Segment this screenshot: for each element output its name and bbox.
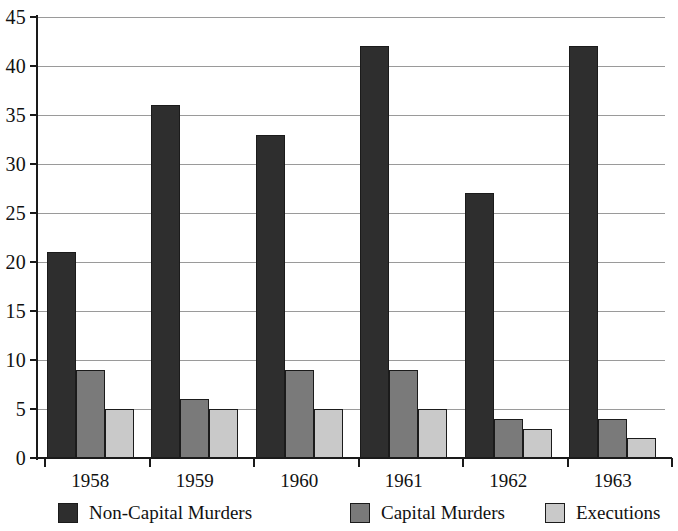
bar [598, 419, 627, 458]
y-axis-tick-label: 25 [6, 203, 26, 223]
bar [314, 409, 343, 458]
bar [569, 46, 598, 458]
legend-label: Executions [576, 502, 660, 524]
chart-legend: Non-Capital MurdersCapital MurdersExecut… [0, 500, 678, 531]
y-axis-tick-label: 5 [16, 399, 26, 419]
bar [418, 409, 447, 458]
bar [627, 438, 656, 458]
x-axis-tick-label: 1962 [468, 470, 548, 492]
bar [151, 105, 180, 458]
x-axis-tick-label: 1960 [259, 470, 339, 492]
bar [285, 370, 314, 458]
y-axis-tick-label: 30 [6, 154, 26, 174]
legend-label: Non-Capital Murders [89, 502, 252, 524]
x-axis-tick-label: 1958 [50, 470, 130, 492]
legend-swatch [58, 503, 78, 523]
y-axis-tick-label: 0 [16, 448, 26, 468]
bar [209, 409, 238, 458]
x-axis-tick-mark [358, 458, 360, 467]
bar [494, 419, 523, 458]
x-axis-tick-mark [253, 458, 255, 467]
bar [360, 46, 389, 458]
x-axis-tick-mark [462, 458, 464, 467]
bar [76, 370, 105, 458]
x-axis-tick-label: 1963 [573, 470, 653, 492]
legend-item[interactable]: Non-Capital Murders [58, 500, 252, 526]
x-axis-tick-mark [149, 458, 151, 467]
bar [465, 193, 494, 458]
y-axis-tick-label: 10 [6, 350, 26, 370]
bar [105, 409, 134, 458]
x-axis-tick-mark [44, 458, 46, 467]
x-axis-tick-label: 1959 [155, 470, 235, 492]
y-axis-tick-label: 35 [6, 105, 26, 125]
legend-item[interactable]: Executions [545, 500, 660, 526]
y-axis-line [36, 15, 38, 460]
bar [47, 252, 76, 458]
bar-chart: 051015202530354045 195819591960196119621… [0, 0, 678, 531]
gridline [38, 17, 665, 18]
bar [523, 429, 552, 458]
y-axis-tick-label: 20 [6, 252, 26, 272]
y-axis-tick-label: 40 [6, 56, 26, 76]
legend-item[interactable]: Capital Murders [350, 500, 505, 526]
legend-swatch [545, 503, 565, 523]
bar [389, 370, 418, 458]
y-axis-tick-label: 15 [6, 301, 26, 321]
x-axis-tick-label: 1961 [364, 470, 444, 492]
bar [180, 399, 209, 458]
x-axis-tick-mark [567, 458, 569, 467]
legend-swatch [350, 503, 370, 523]
y-axis-tick-label: 45 [6, 7, 26, 27]
bar [256, 135, 285, 458]
legend-label: Capital Murders [381, 502, 505, 524]
x-axis-tick-mark [671, 458, 673, 467]
